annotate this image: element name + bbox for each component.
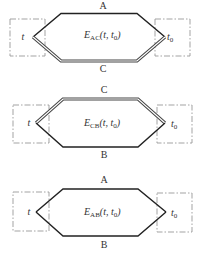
thermocouple-circuit-ac: A C EAC(t, t0) t t0: [10, 0, 190, 74]
thermocouple-circuit-ab: A B EAB(t, t0) t t0: [13, 174, 192, 250]
wire-label-top: A: [100, 174, 108, 185]
junction-label-t: t: [28, 206, 31, 217]
emf-label: EAC(t, t0): [83, 29, 121, 42]
thermocouple-circuit-cb: C B ECB(t, t0) t t0: [13, 84, 192, 160]
junction-label-t: t: [22, 31, 25, 42]
thermocouple-diagrams: A C EAC(t, t0) t t0 C B ECB(t, t0) t t0 …: [0, 0, 198, 254]
wire-label-bottom: B: [101, 149, 108, 160]
wire-label-bottom: C: [100, 63, 107, 74]
junction-label-t0: t0: [167, 31, 174, 44]
junction-box-t: [10, 19, 45, 56]
junction-box-t: [13, 105, 49, 143]
wire-label-top: A: [99, 0, 107, 11]
emf-label: EAB(t, t0): [83, 206, 121, 219]
wire-label-top: C: [101, 84, 108, 95]
junction-box-t: [13, 192, 49, 231]
junction-label-t0: t0: [171, 207, 178, 220]
junction-label-t0: t0: [171, 118, 178, 131]
wire-label-bottom: B: [101, 239, 108, 250]
emf-label: ECB(t, t0): [83, 117, 121, 130]
junction-label-t: t: [28, 117, 31, 128]
